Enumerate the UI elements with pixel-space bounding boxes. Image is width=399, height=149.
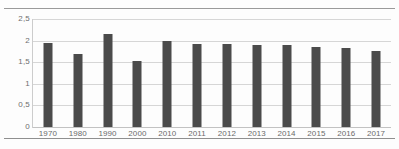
x-tick-label: 2010 (152, 129, 182, 139)
bar (252, 45, 261, 127)
bar-chart-figure: 00,511,522,5 197019801990200020102011201… (0, 0, 399, 149)
bar (103, 34, 112, 127)
chart-frame-top-rule (4, 8, 395, 9)
y-tick-label: 1 (2, 80, 30, 88)
plot-area (33, 19, 391, 127)
bar-slot (63, 19, 93, 127)
bar (342, 48, 351, 127)
x-tick-label: 2011 (182, 129, 212, 139)
y-tick-label: 0 (2, 123, 30, 131)
y-tick-label: 1,5 (2, 58, 30, 66)
bar-slot (93, 19, 123, 127)
x-axis-tick-labels: 1970198019902000201020112012201320142015… (33, 129, 391, 141)
y-axis-tick-labels: 00,511,522,5 (0, 19, 30, 127)
x-tick-label: 1970 (33, 129, 63, 139)
x-tick-label: 2014 (272, 129, 302, 139)
bar-slot (33, 19, 63, 127)
bar-slot (242, 19, 272, 127)
bar-slot (182, 19, 212, 127)
bar-slot (152, 19, 182, 127)
x-tick-label: 2015 (302, 129, 332, 139)
x-tick-label: 2017 (361, 129, 391, 139)
bar (372, 51, 381, 127)
x-tick-label: 2012 (212, 129, 242, 139)
y-tick-label: 0,5 (2, 101, 30, 109)
bar-series (33, 19, 391, 127)
x-tick-label: 1980 (63, 129, 93, 139)
bar (312, 47, 321, 127)
x-tick-label: 2016 (331, 129, 361, 139)
bar (43, 43, 52, 127)
bar (73, 54, 82, 127)
bar (163, 41, 172, 127)
gridline (33, 127, 391, 128)
bar (133, 61, 142, 127)
bar-slot (361, 19, 391, 127)
bar-slot (123, 19, 153, 127)
y-tick-label: 2 (2, 37, 30, 45)
y-tick-label: 2,5 (2, 15, 30, 23)
bar-slot (302, 19, 332, 127)
bar (193, 44, 202, 127)
x-tick-label: 1990 (93, 129, 123, 139)
bar (222, 44, 231, 127)
bar-slot (331, 19, 361, 127)
bar-slot (212, 19, 242, 127)
bar (282, 45, 291, 127)
bar-slot (272, 19, 302, 127)
x-tick-label: 2013 (242, 129, 272, 139)
x-tick-label: 2000 (123, 129, 153, 139)
